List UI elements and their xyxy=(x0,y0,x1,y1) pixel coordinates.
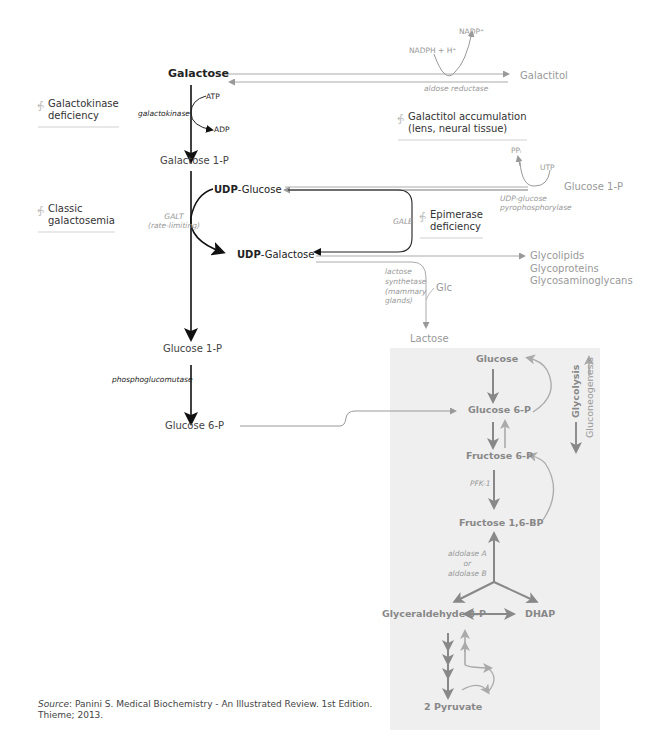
glyco-products-label: Glycolipids Glycoproteins Glycosaminogly… xyxy=(530,250,633,288)
glc-label: Glc xyxy=(436,282,452,294)
box-glyceraldehyde-3p-label: Glyceraldehyde 3-P xyxy=(382,609,486,620)
box-pyruvate-label: 2 Pyruvate xyxy=(424,702,482,713)
utp-label: UTP xyxy=(540,164,555,173)
box-dhap-label: DHAP xyxy=(525,609,555,620)
udp-glucose-pyrophosphorylase-label: UDP-glucose pyrophosphorylase xyxy=(500,195,572,212)
aldose-reductase-label: aldose reductase xyxy=(424,85,488,94)
gluconeogenesis-label: Gluconeogenesis xyxy=(584,357,595,438)
glucose-1p-label: Glucose 1-P xyxy=(163,343,222,355)
glucose-1p-right-label: Glucose 1-P xyxy=(564,181,623,193)
source-citation: Source: Panini S. Medical Biochemistry -… xyxy=(38,699,372,722)
aldolase-label: aldolase A or aldolase B xyxy=(448,549,487,578)
nadph-label: NADPH + H⁺ xyxy=(409,47,456,56)
lightning-icon: ⨗ xyxy=(38,204,44,217)
galactose-label: Galactose xyxy=(168,68,229,81)
lightning-icon: ⨗ xyxy=(420,210,426,223)
box-glucose-label: Glucose xyxy=(476,354,518,365)
box-fructose-6p-label: Fructose 6-P xyxy=(466,451,533,462)
udp-galactose-label: UDP-Galactose xyxy=(237,249,314,261)
galactose-1p-label: Galactose 1-P xyxy=(160,155,229,167)
lightning-icon: ⨗ xyxy=(398,112,404,125)
udp-glucose-label: UDP-Glucose xyxy=(214,184,282,196)
glycolysis-label: Glycolysis xyxy=(570,365,581,418)
atp-label: ATP xyxy=(206,93,220,102)
ppi-label: PPᵢ xyxy=(511,147,521,156)
nadp-label: NADP⁺ xyxy=(459,28,484,37)
galactitol-label: Galactitol xyxy=(520,70,568,82)
galt-label: GALT (rate-limiting) xyxy=(148,213,200,230)
galactokinase-label: galactokinase xyxy=(138,110,190,119)
glucose-6p-label: Glucose 6-P xyxy=(165,420,224,432)
pfk1-label: PFK-1 xyxy=(470,480,490,489)
lactose-label: Lactose xyxy=(410,333,449,345)
disorder-galactitol-accumulation: ⨗ Galactitol accumulation (lens, neural … xyxy=(398,111,527,141)
disorder-galactokinase-deficiency: ⨗ Galactokinase deficiency xyxy=(38,98,119,128)
box-glucose-6p-label: Glucose 6-P xyxy=(468,405,531,416)
disorder-epimerase-deficiency: ⨗ Epimerase deficiency xyxy=(420,209,483,239)
gale-label: GALE xyxy=(393,218,413,227)
box-fructose-16bp-label: Fructose 1,6-BP xyxy=(459,518,543,529)
phosphoglucomutase-label: phosphoglucomutase xyxy=(112,376,193,385)
adp-label: ADP xyxy=(214,126,229,135)
lightning-icon: ⨗ xyxy=(38,99,44,112)
lactose-synthetase-label: lactose synthetase (mammary glands) xyxy=(385,267,427,306)
disorder-classic-galactosemia: ⨗ Classic galactosemia xyxy=(38,203,115,233)
